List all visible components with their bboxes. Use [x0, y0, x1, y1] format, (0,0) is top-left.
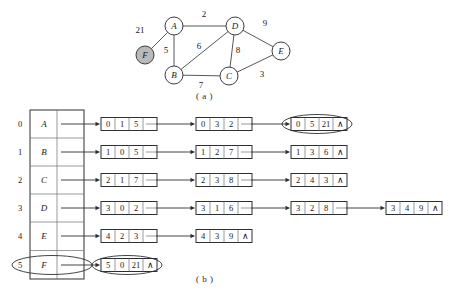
list-node-c0-r0-cell-1: 1	[120, 119, 124, 129]
list-node-c1-r0-cell-1: 3	[215, 119, 219, 129]
list-node-c3-r3-cell-0: 3	[391, 203, 395, 213]
list-node-c2-r1-cell-1: 3	[310, 147, 314, 157]
edge-weight-c-e: 3	[260, 69, 265, 79]
edge-weight-d-e: 9	[263, 18, 268, 28]
list-node-c0-r4-next-arrowhead	[191, 234, 195, 239]
graph-edge-c-e	[237, 55, 273, 72]
list-node-c0-r1-next-arrowhead	[191, 150, 195, 155]
graph-node-label-f: F	[141, 50, 148, 60]
list-node-c1-r4-cell-1: 3	[215, 231, 219, 241]
list-node-c1-r2-cell-0: 2	[201, 175, 205, 185]
list-node-c2-r2-null-marker: ∧	[337, 175, 344, 185]
list-node-c0-r4-cell-1: 2	[120, 231, 124, 241]
list-node-c2-r1-cell-0: 1	[296, 147, 300, 157]
list-node-c0-r2-cell-2: 7	[134, 175, 138, 185]
list-node-c2-r3-cell-0: 3	[296, 203, 300, 213]
graph-node-label-a: A	[170, 21, 177, 31]
list-node-c0-r2-cell-1: 1	[120, 175, 124, 185]
caption-b: ( b )	[196, 274, 214, 284]
caption-a: ( a )	[196, 91, 213, 101]
edge-weight-b-c: 7	[199, 80, 204, 90]
list-node-c0-r3-cell-1: 0	[120, 203, 124, 213]
vertex-name-b: B	[41, 147, 47, 157]
vertex-name-d: D	[40, 203, 48, 213]
row-index-4: 4	[18, 231, 23, 241]
list-node-c0-r2-next-arrowhead	[191, 178, 195, 183]
list-node-c1-r3-cell-2: 6	[229, 203, 233, 213]
list-node-c1-r2-cell-1: 3	[215, 175, 219, 185]
list-node-c0-r0-cell-0: 0	[106, 119, 110, 129]
list-node-c2-r1-cell-2: 6	[324, 147, 328, 157]
list-node-c2-r0-cell-1: 5	[310, 119, 314, 129]
row-index-1: 1	[18, 147, 22, 157]
list-node-c2-r3-cell-2: 8	[324, 203, 328, 213]
list-node-c2-r2-cell-2: 3	[324, 175, 328, 185]
list-node-c1-r1-cell-1: 2	[215, 147, 219, 157]
list-node-c2-r0-cell-0: 0	[296, 119, 300, 129]
list-node-c0-r4-cell-2: 3	[134, 231, 138, 241]
table-pointer-arrowhead-2	[96, 178, 100, 183]
list-node-c3-r3-cell-2: 9	[419, 203, 423, 213]
list-node-c0-r3-cell-2: 2	[134, 203, 138, 213]
list-node-c0-r0-cell-2: 5	[134, 119, 138, 129]
list-node-c1-r0-cell-0: 0	[201, 119, 205, 129]
list-node-c3-r3-null-marker: ∧	[432, 203, 439, 213]
list-node-c2-r3-next-arrowhead	[381, 206, 385, 211]
list-node-c0-r5-cell-0: 5	[106, 260, 110, 270]
list-node-c0-r5-cell-2: 21	[132, 260, 141, 270]
figure-svg: 252167893ADBCEF 0A1B2C3D4E5F015105217302…	[0, 0, 461, 292]
graph-node-label-b: B	[171, 70, 177, 80]
table-pointer-arrowhead-1	[96, 150, 100, 155]
list-node-c1-r3-cell-0: 3	[201, 203, 205, 213]
row-index-5: 5	[18, 260, 22, 270]
figure-canvas: 252167893ADBCEF 0A1B2C3D4E5F015105217302…	[0, 0, 461, 292]
table-pointer-arrowhead-4	[96, 234, 100, 239]
graph-node-label-d: D	[231, 21, 239, 31]
adjacency-list-part-b: 0A1B2C3D4E5F0151052173024235021∧03212723…	[12, 110, 442, 279]
list-node-c1-r4-cell-2: 9	[229, 231, 233, 241]
list-node-c0-r3-cell-0: 3	[106, 203, 110, 213]
table-pointer-arrowhead-0	[96, 122, 100, 127]
edge-weight-a-b: 5	[164, 45, 169, 55]
vertex-name-c: C	[41, 175, 48, 185]
list-node-c1-r2-cell-2: 8	[229, 175, 233, 185]
list-node-c2-r1-null-marker: ∧	[337, 147, 344, 157]
list-node-c1-r4-null-marker: ∧	[242, 231, 249, 241]
vertex-name-e: E	[40, 231, 47, 241]
edge-weight-a-d: 2	[202, 9, 207, 19]
list-node-c1-r3-next-arrowhead	[286, 206, 290, 211]
list-node-c0-r0-next-arrowhead	[191, 122, 195, 127]
list-node-c2-r0-cell-2: 21	[322, 119, 331, 129]
vertex-name-a: A	[40, 119, 47, 129]
list-node-c1-r1-cell-0: 1	[201, 147, 205, 157]
graph-edge-b-d	[181, 32, 228, 70]
vertex-name-f: F	[40, 260, 47, 270]
graph-part-a: 252167893ADBCEF	[136, 9, 291, 90]
list-node-c0-r5-null-marker: ∧	[147, 260, 154, 270]
list-node-c1-r2-next-arrowhead	[286, 178, 290, 183]
list-node-c2-r2-cell-0: 2	[296, 175, 300, 185]
list-node-c0-r1-cell-1: 0	[120, 147, 124, 157]
list-node-c0-r1-cell-2: 5	[134, 147, 138, 157]
graph-edge-b-c	[183, 75, 220, 76]
list-node-c0-r2-cell-0: 2	[106, 175, 110, 185]
table-pointer-arrowhead-3	[96, 206, 100, 211]
row-index-2: 2	[18, 175, 22, 185]
list-node-c1-r1-next-arrowhead	[286, 150, 290, 155]
list-node-c1-r3-cell-1: 1	[215, 203, 219, 213]
edge-weight-a-f: 21	[136, 25, 145, 35]
graph-edge-d-c	[230, 35, 234, 67]
list-node-c1-r0-cell-2: 2	[229, 119, 233, 129]
list-node-c0-r1-cell-0: 1	[106, 147, 110, 157]
row-index-0: 0	[18, 119, 22, 129]
graph-edge-d-e	[243, 30, 273, 46]
list-node-c0-r3-next-arrowhead	[191, 206, 195, 211]
list-node-c1-r0-next-arrowhead	[286, 122, 290, 127]
graph-node-label-c: C	[226, 71, 233, 81]
edge-weight-b-d: 6	[197, 41, 202, 51]
list-node-c2-r3-cell-1: 2	[310, 203, 314, 213]
table-pointer-arrowhead-5	[96, 263, 100, 268]
list-node-c0-r5-cell-1: 0	[120, 260, 124, 270]
edge-weight-d-c: 8	[236, 45, 241, 55]
list-node-c2-r0-null-marker: ∧	[337, 119, 344, 129]
